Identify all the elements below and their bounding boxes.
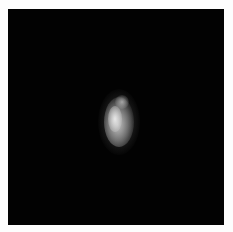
image-frame bbox=[8, 9, 224, 225]
object-core bbox=[108, 106, 122, 132]
object-top-lobe bbox=[115, 95, 129, 109]
